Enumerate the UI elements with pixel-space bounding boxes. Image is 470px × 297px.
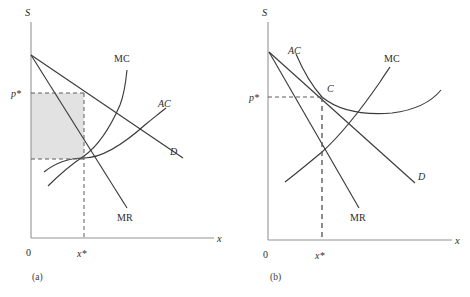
x-star-tick-label-a: x* bbox=[76, 248, 86, 259]
ac-curve-label-a: AC bbox=[157, 98, 171, 109]
panel-b: S x 0 x* p* C AC MC D MR bbox=[248, 7, 460, 261]
mc-curve-label-a: MC bbox=[114, 53, 130, 64]
panel-a-caption: (a) bbox=[32, 272, 43, 282]
tangency-point-label-c: C bbox=[327, 83, 334, 94]
p-star-tick-label-a: p* bbox=[10, 88, 21, 99]
p-star-tick-label-b: p* bbox=[248, 92, 259, 103]
demand-curve-label-a: D bbox=[169, 146, 178, 157]
panel-b-caption: (b) bbox=[270, 272, 281, 282]
average-cost-curve-b bbox=[296, 54, 441, 114]
marginal-revenue-curve-b bbox=[269, 52, 359, 208]
y-axis-label-b: S bbox=[262, 7, 268, 18]
ac-curve-label-b: AC bbox=[287, 45, 301, 56]
origin-label-a: 0 bbox=[26, 247, 31, 258]
monopoly-diagram-figure: S x 0 x* p* MC AC D MR S x 0 x* p* C AC … bbox=[0, 0, 470, 297]
demand-curve-label-b: D bbox=[417, 171, 426, 182]
x-axis-label-b: x bbox=[454, 235, 460, 246]
origin-label-b: 0 bbox=[263, 249, 268, 260]
panel-a: S x 0 x* p* MC AC D MR bbox=[10, 7, 222, 259]
x-star-tick-label-b: x* bbox=[314, 250, 324, 261]
y-axis-label-a: S bbox=[25, 7, 31, 18]
mc-curve-label-b: MC bbox=[384, 53, 400, 64]
demand-curve-b bbox=[269, 52, 415, 183]
x-axis-label-a: x bbox=[216, 233, 222, 244]
marginal-cost-curve-b bbox=[285, 67, 390, 182]
mr-curve-label-b: MR bbox=[350, 212, 366, 223]
mr-curve-label-a: MR bbox=[117, 212, 133, 223]
